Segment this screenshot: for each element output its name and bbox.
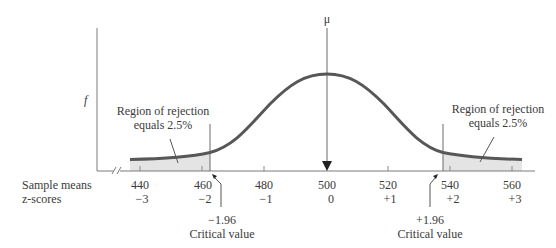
right-region-label-1: Region of rejection	[452, 103, 545, 116]
z-tick-pos3: +3	[509, 193, 522, 206]
tick-500: 500	[318, 179, 336, 192]
left-crit-label: Critical value	[190, 228, 255, 241]
tick-440: 440	[131, 179, 149, 192]
left-region-label-2: equals 2.5%	[134, 119, 193, 132]
z-tick-neg2: −2	[199, 193, 212, 206]
right-crit-arrowhead-icon	[433, 174, 438, 179]
mean-arrowhead-icon	[322, 161, 332, 171]
left-crit-arrowhead-icon	[212, 174, 217, 179]
tick-520: 520	[379, 179, 397, 192]
z-tick-neg1: −1	[260, 193, 273, 206]
tick-560: 560	[503, 179, 521, 192]
left-crit-value: −1.96	[208, 214, 236, 227]
z-tick-neg3: −3	[136, 193, 149, 206]
right-region-label-2: equals 2.5%	[469, 117, 528, 130]
z-tick-0: 0	[328, 193, 334, 206]
tick-480: 480	[255, 179, 273, 192]
tick-540: 540	[441, 179, 459, 192]
z-scores-label: z-scores	[22, 193, 61, 206]
z-tick-pos2: +2	[447, 193, 460, 206]
y-axis-label: f	[84, 94, 87, 107]
tick-460: 460	[194, 179, 212, 192]
left-region-label-1: Region of rejection	[117, 105, 210, 118]
right-crit-label: Critical value	[398, 228, 463, 241]
z-tick-pos1: +1	[384, 193, 397, 206]
left-crit-pointer-2	[214, 177, 221, 184]
sample-means-label: Sample means	[22, 179, 92, 192]
right-crit-value: +1.96	[416, 214, 444, 227]
mu-label: μ	[324, 13, 330, 26]
